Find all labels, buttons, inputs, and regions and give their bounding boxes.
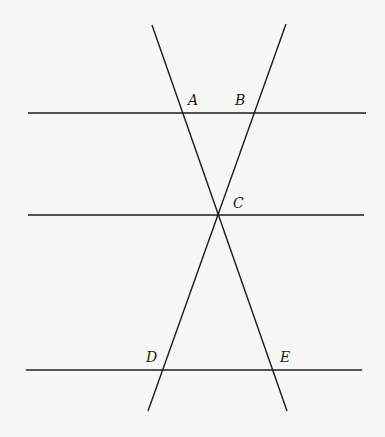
point-label-e: E	[279, 349, 290, 365]
point-label-c: C	[233, 195, 244, 211]
transversal-ace	[152, 25, 287, 411]
transversal-bcd	[148, 24, 286, 411]
geometry-diagram: A B C D E	[0, 0, 385, 437]
point-label-a: A	[186, 92, 198, 108]
point-label-b: B	[234, 92, 245, 108]
point-label-d: D	[145, 349, 157, 365]
